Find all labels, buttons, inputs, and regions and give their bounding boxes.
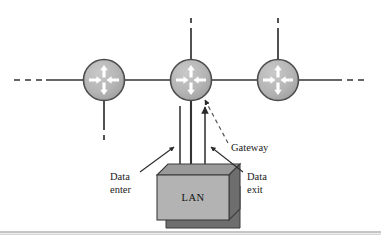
data-exit-callout-label-line2: exit [247, 184, 263, 195]
router-left[interactable] [84, 60, 125, 101]
lan-box-top-face [157, 164, 240, 175]
gateway-callout: Gateway [205, 100, 269, 153]
gateway-callout-leader [205, 100, 228, 143]
gateway-callout-label: Gateway [231, 142, 269, 153]
router-middle-gateway[interactable] [171, 60, 212, 101]
data-exit-callout-label-line1: Data [247, 171, 267, 182]
lan-box-label: LAN [182, 192, 205, 203]
data-enter-callout-label-line2: enter [110, 184, 131, 195]
lan-box[interactable]: LAN [157, 164, 240, 228]
data-enter-callout-label-line1: Data [110, 171, 130, 182]
network-diagram-figure: LAN Gateway Data enter Data exit [0, 0, 381, 240]
bottom-rule [0, 232, 381, 234]
diagram-canvas: LAN Gateway Data enter Data exit [0, 0, 381, 240]
data-flow-arrows [180, 106, 205, 172]
router-right[interactable] [258, 60, 299, 101]
